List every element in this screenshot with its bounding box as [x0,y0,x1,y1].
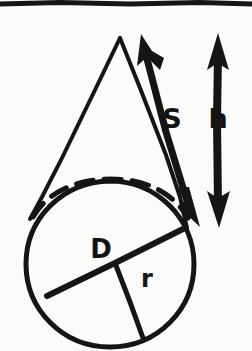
label-diameter: D [90,234,112,264]
label-slant-height: S [162,103,181,134]
label-radius: r [141,265,153,293]
horizontal-rule [0,3,252,5]
label-height: h [208,103,227,134]
cone-diagram-figure: S h D r [0,0,252,351]
diagram-canvas: S h D r [0,0,252,351]
